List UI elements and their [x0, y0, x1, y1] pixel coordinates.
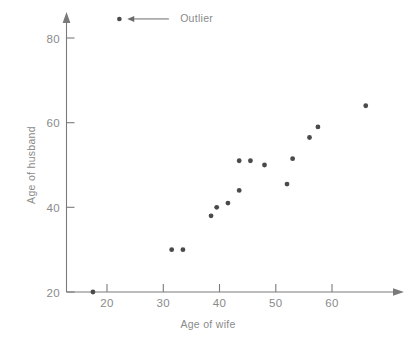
outlier-legend: Outlier	[117, 12, 213, 24]
y-tick-label-60: 60	[46, 117, 60, 129]
data-point	[285, 182, 290, 187]
data-point	[214, 205, 219, 210]
data-point	[307, 135, 312, 140]
y-axis	[63, 12, 71, 292]
y-axis-arrow-icon	[63, 12, 71, 23]
x-tick-label-30: 30	[157, 297, 171, 309]
y-axis-title: Age of husband	[25, 126, 37, 204]
legend-outlier-label: Outlier	[180, 12, 213, 24]
data-point	[237, 188, 242, 193]
data-point	[181, 247, 186, 252]
y-tick-label-20: 20	[46, 287, 60, 299]
y-axis-tick-labels: 80 60 40 20	[46, 33, 60, 299]
data-point	[169, 247, 174, 252]
y-tick-label-40: 40	[46, 202, 60, 214]
data-point	[226, 201, 231, 206]
legend-arrow-head-icon	[127, 16, 134, 22]
data-point	[237, 158, 242, 163]
x-axis-title: Age of wife	[180, 318, 235, 330]
data-point	[316, 125, 321, 130]
data-point	[209, 213, 214, 218]
x-tick-label-60: 60	[325, 297, 339, 309]
legend-outlier-marker-icon	[117, 17, 122, 22]
x-axis	[67, 288, 405, 296]
y-axis-ticks	[67, 38, 75, 292]
data-point	[363, 103, 368, 108]
x-axis-arrow-icon	[393, 288, 404, 296]
x-tick-label-20: 20	[100, 297, 114, 309]
x-axis-tick-labels: 20 30 40 50 60	[100, 297, 339, 309]
data-point	[290, 156, 295, 161]
plot-canvas: 80 60 40 20 20 30 40 50 60 Age of wife A…	[0, 0, 412, 343]
x-tick-label-50: 50	[269, 297, 283, 309]
scatter-plot-figure: 80 60 40 20 20 30 40 50 60 Age of wife A…	[0, 0, 412, 343]
data-point	[248, 158, 253, 163]
data-point	[262, 163, 267, 168]
data-point-outlier	[91, 290, 96, 295]
x-axis-ticks	[107, 284, 332, 292]
x-tick-label-40: 40	[213, 297, 227, 309]
data-points-layer	[91, 103, 369, 294]
y-tick-label-80: 80	[46, 33, 60, 45]
